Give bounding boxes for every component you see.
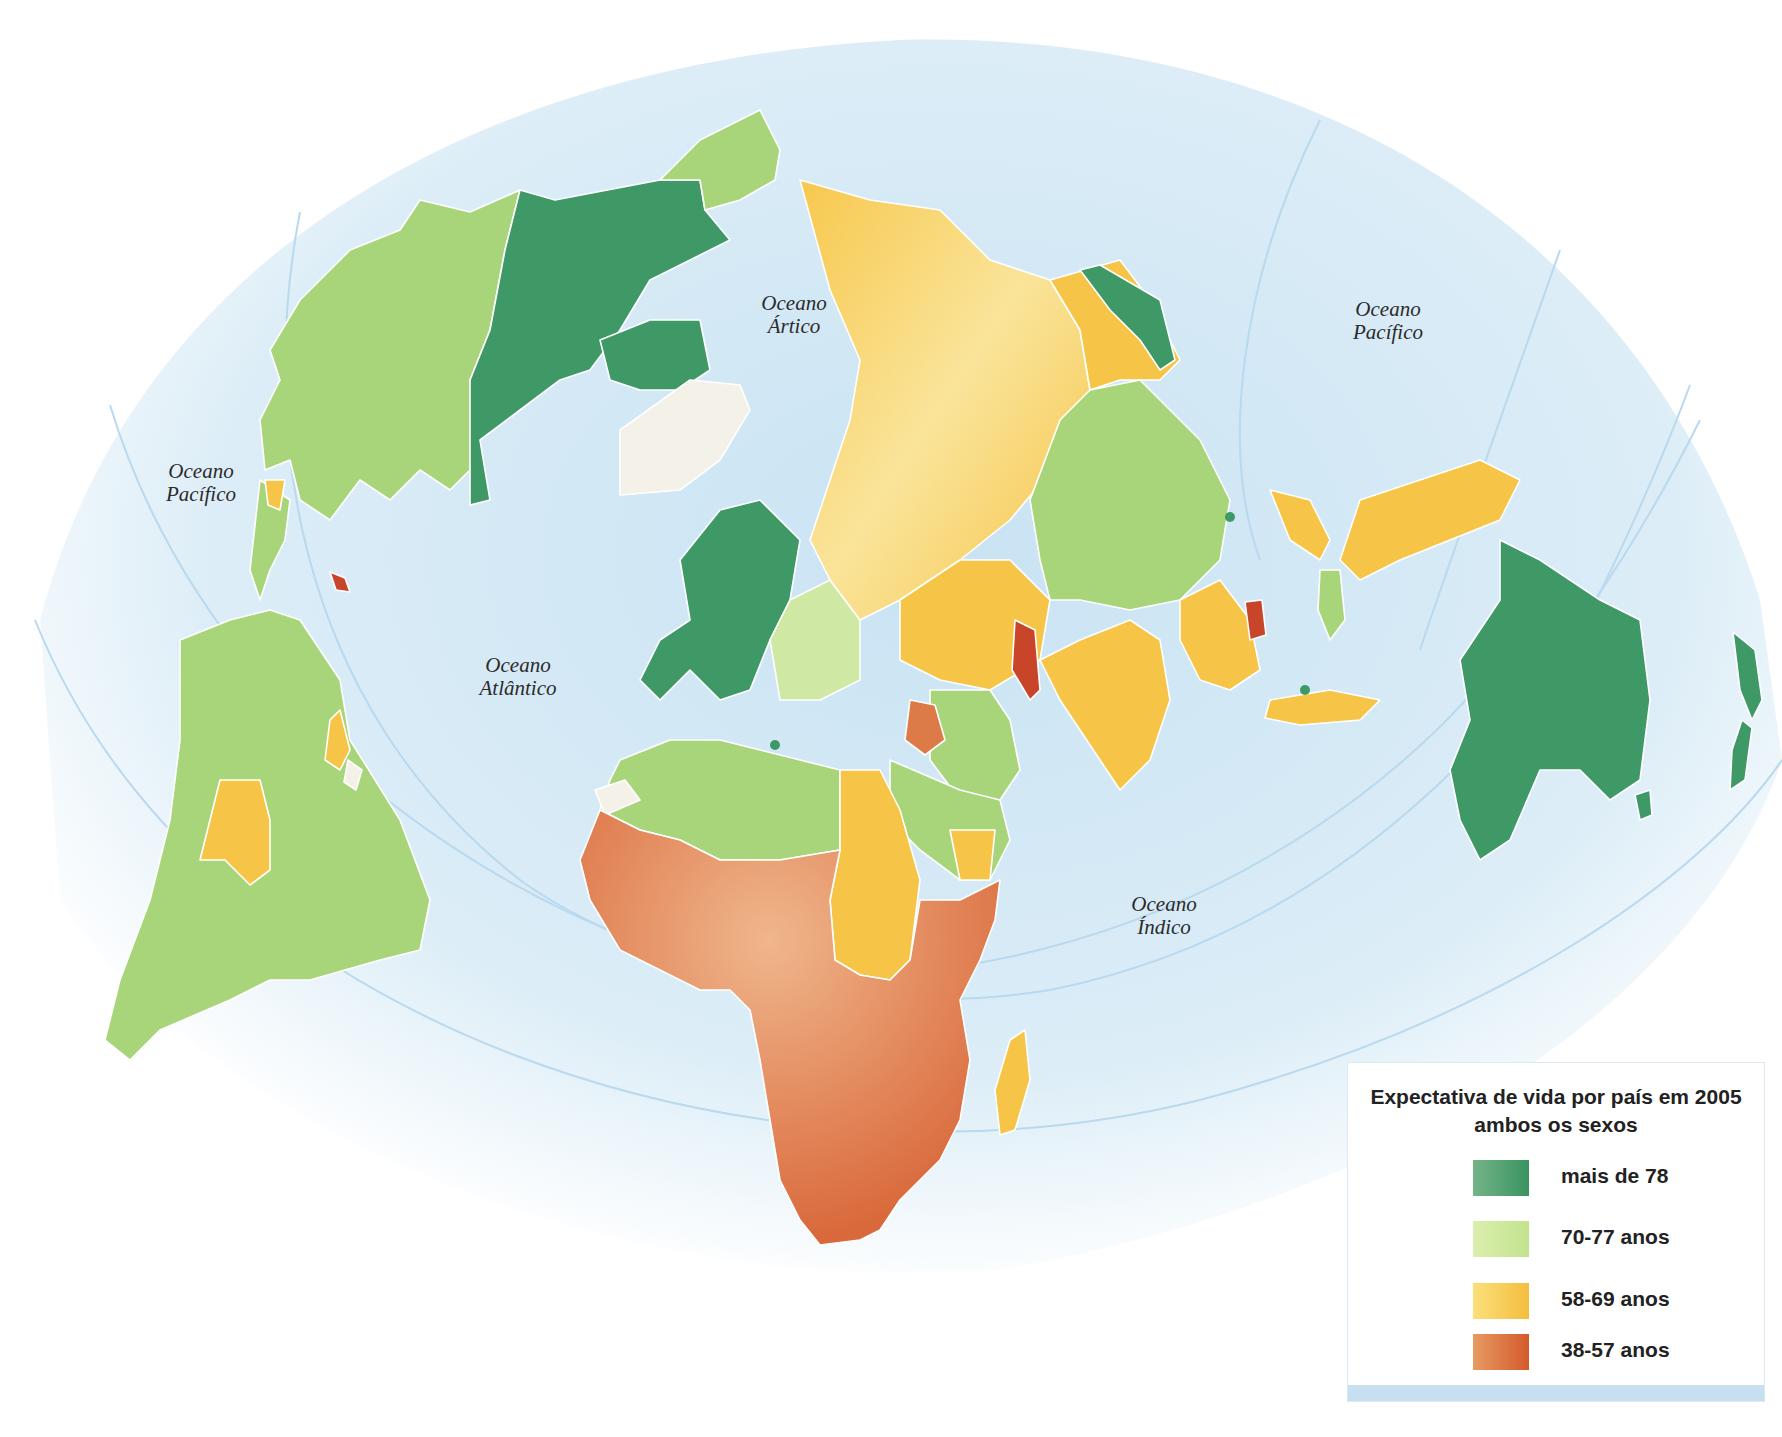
legend-swatch-light-green: [1473, 1221, 1529, 1257]
legend-label: 38-57 anos: [1561, 1338, 1670, 1362]
label-indian-ocean: Oceano Índico: [1084, 893, 1244, 939]
ocean-label-line2: Ártico: [714, 315, 874, 338]
label-atlantic-ocean: Oceano Atlântico: [438, 654, 598, 700]
label-pacific-ocean-east: Oceano Pacífico: [1308, 298, 1468, 344]
ocean-label-line1: Oceano: [1084, 893, 1244, 916]
legend-title: Expectativa de vida por país em 2005 amb…: [1348, 1083, 1764, 1139]
legend-item-58-69: 58-69 anos: [1473, 1283, 1733, 1319]
ocean-label-line2: Pacífico: [1308, 321, 1468, 344]
legend-footer-bar: [1348, 1385, 1764, 1401]
legend-item-70-77: 70-77 anos: [1473, 1221, 1733, 1257]
ocean-label-line2: Pacífico: [121, 483, 281, 506]
island-taiwan: [1225, 512, 1235, 522]
legend-title-line2: ambos os sexos: [1348, 1111, 1764, 1139]
legend-item-38-57: 38-57 anos: [1473, 1334, 1733, 1370]
ocean-label-line1: Oceano: [714, 292, 874, 315]
ocean-label-line2: Índico: [1084, 916, 1244, 939]
map-legend: Expectativa de vida por país em 2005 amb…: [1347, 1062, 1765, 1402]
legend-swatch-orange: [1473, 1334, 1529, 1370]
legend-label: mais de 78: [1561, 1164, 1668, 1188]
legend-swatch-dark-green: [1473, 1160, 1529, 1196]
ocean-label-line1: Oceano: [121, 460, 281, 483]
ocean-label-line1: Oceano: [438, 654, 598, 677]
legend-label: 58-69 anos: [1561, 1287, 1670, 1311]
legend-title-line1: Expectativa de vida por país em 2005: [1348, 1083, 1764, 1111]
label-arctic-ocean: Oceano Ártico: [714, 292, 874, 338]
legend-item-above-78: mais de 78: [1473, 1160, 1733, 1196]
island-cyprus: [770, 740, 780, 750]
island-singapore: [1300, 685, 1310, 695]
ocean-label-line2: Atlântico: [438, 677, 598, 700]
legend-label: 70-77 anos: [1561, 1225, 1670, 1249]
ocean-label-line1: Oceano: [1308, 298, 1468, 321]
legend-swatch-yellow: [1473, 1283, 1529, 1319]
label-pacific-ocean-west: Oceano Pacífico: [121, 460, 281, 506]
